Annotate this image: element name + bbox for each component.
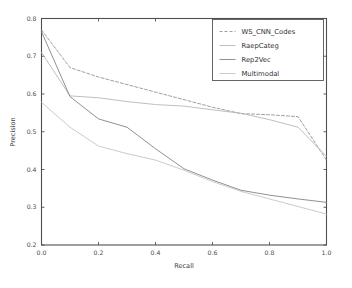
x-tick-label: 1.0 bbox=[322, 249, 332, 256]
y-tick-label: 0.2 bbox=[27, 241, 37, 248]
chart-figure: 0.00.20.40.60.81.0 0.20.30.40.50.60.70.8… bbox=[0, 0, 352, 288]
y-tick-label: 0.8 bbox=[27, 15, 37, 22]
y-axis-label: Precision bbox=[9, 117, 17, 146]
legend-label-2: Rep2Vec bbox=[242, 56, 272, 64]
legend-label-3: Multimodal bbox=[242, 70, 280, 78]
chart-legend[interactable]: WS_CNN_CodesRaepCategRep2VecMultimodal bbox=[213, 20, 324, 81]
y-tick-label: 0.3 bbox=[27, 203, 37, 210]
y-tick-label: 0.5 bbox=[27, 128, 37, 135]
legend-label-0: WS_CNN_Codes bbox=[242, 28, 296, 36]
precision-recall-plot: 0.00.20.40.60.81.0 0.20.30.40.50.60.70.8… bbox=[0, 0, 352, 288]
y-tick-label: 0.4 bbox=[27, 166, 37, 173]
x-axis-label: Recall bbox=[174, 262, 194, 270]
x-tick-label: 0.8 bbox=[265, 249, 275, 256]
x-tick-label: 0.2 bbox=[94, 249, 104, 256]
y-tick-label: 0.7 bbox=[27, 52, 37, 59]
legend-label-1: RaepCateg bbox=[242, 42, 279, 50]
x-tick-label: 0.0 bbox=[37, 249, 47, 256]
x-tick-label: 0.6 bbox=[208, 249, 218, 256]
y-tick-label: 0.6 bbox=[27, 90, 37, 97]
x-tick-label: 0.4 bbox=[151, 249, 161, 256]
